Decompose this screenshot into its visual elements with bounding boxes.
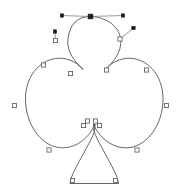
upper-right-anchor[interactable]: [118, 37, 122, 41]
left-lobe-bottom-anchor[interactable]: [47, 148, 51, 152]
right-lobe-bottom-anchor[interactable]: [135, 148, 139, 152]
upper-left-tangent-handle-dot[interactable]: [53, 30, 56, 33]
left-lobe-top-anchor[interactable]: [41, 63, 45, 67]
canvas-root: [0, 0, 188, 193]
shape-outline-group: [26, 16, 164, 183]
top-center-left-handle-dot[interactable]: [60, 14, 63, 17]
upper-right-tangent-handle-dot[interactable]: [132, 26, 135, 29]
top-center-anchor[interactable]: [88, 14, 93, 19]
left-lobe-side-anchor[interactable]: [12, 103, 16, 107]
anchor-nodes-group: [12, 14, 168, 182]
top-center-left-handle-line: [62, 16, 91, 17]
left-notch-anchor[interactable]: [68, 71, 72, 75]
club-shape-path[interactable]: [26, 16, 164, 183]
stem-bottom-right-anchor[interactable]: [113, 178, 117, 182]
top-center-right-handle-dot[interactable]: [121, 14, 124, 17]
right-notch-anchor[interactable]: [104, 68, 108, 72]
upper-left-anchor[interactable]: [53, 38, 57, 42]
stem-left-inner-anchor[interactable]: [81, 123, 85, 127]
top-center-right-handle-line: [91, 16, 124, 17]
right-lobe-top-anchor[interactable]: [144, 68, 148, 72]
right-lobe-side-anchor[interactable]: [164, 103, 168, 107]
vector-canvas[interactable]: [0, 0, 188, 193]
stem-right-top-anchor[interactable]: [93, 119, 97, 123]
stem-right-inner-anchor[interactable]: [97, 123, 101, 127]
stem-left-top-anchor[interactable]: [85, 119, 89, 123]
stem-bottom-left-anchor[interactable]: [70, 178, 74, 182]
